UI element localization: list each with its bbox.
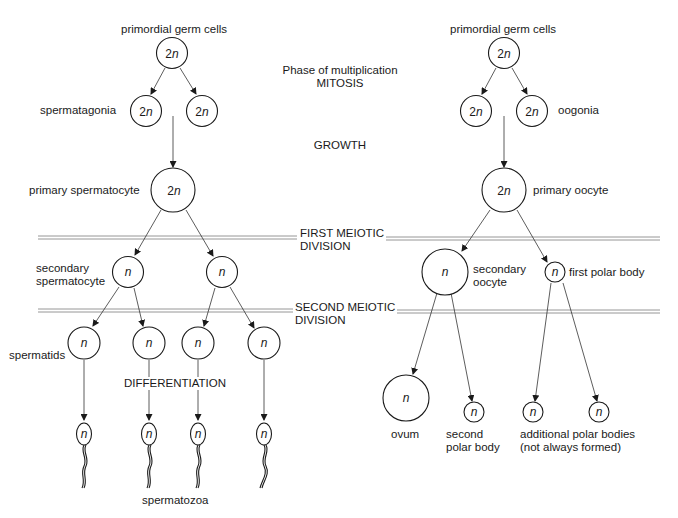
spermatagonia-label: spermatagonia [40, 104, 116, 117]
secondary-spermatocyte-label: secondary spermatocyte [36, 262, 105, 288]
node-primary-spermatocyte: 2n [151, 168, 195, 212]
node-secondary-oocyte: n [422, 249, 468, 295]
phase-growth-label: GROWTH [290, 139, 390, 152]
node-secondary-spermatocyte-2: n [207, 257, 238, 288]
node-female-primordial: 2n [489, 38, 520, 69]
svg-text:2n: 2n [497, 184, 511, 198]
node-spermatagonium-1: 2n [131, 96, 162, 127]
svg-text:2n: 2n [497, 47, 511, 61]
spermatids-label: spermatids [9, 349, 65, 362]
svg-text:2n: 2n [139, 105, 153, 119]
node-spermatid-4: n [248, 327, 280, 359]
male-primordial-label: primordial germ cells [121, 23, 227, 36]
spermatozoa-label: spermatozoa [142, 494, 208, 507]
svg-text:2n: 2n [195, 105, 209, 119]
svg-text:n: n [195, 427, 202, 441]
female-connectors [413, 68, 597, 401]
first-meiotic-division-label: FIRST MEIOTIC DIVISION [300, 227, 386, 253]
secondary-text: secondary [473, 263, 526, 276]
division-text: DIVISION [300, 240, 384, 253]
svg-text:n: n [125, 265, 132, 279]
svg-text:2n: 2n [165, 47, 179, 61]
spermatocyte-text: spermatocyte [36, 275, 105, 288]
node-spermatozoon-2: n [142, 423, 157, 488]
phase-multiplication-text: Phase of multiplication [265, 64, 415, 77]
svg-text:n: n [146, 427, 153, 441]
node-male-primordial: 2n [157, 38, 188, 69]
phase-multiplication-label: Phase of multiplication MITOSIS [265, 64, 415, 90]
node-additional-polar-body-2: n [589, 402, 609, 422]
svg-text:n: n [403, 391, 410, 405]
svg-text:2n: 2n [525, 105, 539, 119]
node-spermatozoon-4: n [257, 423, 272, 488]
second-meiotic-text: SECOND MEIOTIC [295, 301, 395, 314]
node-spermatozoon-1: n [77, 423, 92, 488]
svg-text:n: n [552, 265, 559, 279]
svg-text:n: n [81, 336, 88, 350]
additional-polar-bodies-text: additional polar bodies [520, 428, 635, 441]
node-ovum: n [383, 375, 429, 421]
node-oogonium-2: 2n [517, 96, 548, 127]
svg-text:n: n [442, 265, 449, 279]
svg-text:n: n [530, 405, 537, 419]
oogonia-label: oogonia [558, 104, 599, 117]
first-meiotic-text: FIRST MEIOTIC [300, 227, 384, 240]
svg-text:n: n [596, 405, 603, 419]
second-polar-body-label: second polar body [446, 428, 500, 454]
svg-text:n: n [81, 427, 88, 441]
node-spermatagonium-2: 2n [187, 96, 218, 127]
svg-text:2n: 2n [469, 105, 483, 119]
secondary-oocyte-label: secondary oocyte [473, 263, 526, 289]
node-first-polar-body: n [545, 262, 565, 282]
svg-text:n: n [219, 265, 226, 279]
second-meiotic-division-label: SECOND MEIOTIC DIVISION [295, 301, 397, 327]
svg-text:n: n [195, 336, 202, 350]
not-always-formed-text: (not always formed) [520, 441, 635, 454]
svg-text:2n: 2n [167, 184, 181, 198]
second-text: second [446, 428, 500, 441]
oocyte-text: oocyte [473, 276, 526, 289]
svg-text:n: n [261, 427, 268, 441]
node-second-polar-body: n [464, 402, 484, 422]
polar-body-text: polar body [446, 441, 500, 454]
node-spermatid-3: n [182, 327, 214, 359]
additional-polar-bodies-label: additional polar bodies (not always form… [520, 428, 635, 454]
female-primordial-label: primordial germ cells [450, 23, 556, 36]
male-connectors [84, 68, 264, 420]
node-oogonium-1: 2n [461, 96, 492, 127]
node-additional-polar-body-1: n [523, 402, 543, 422]
node-primary-oocyte: 2n [482, 168, 526, 212]
secondary-text: secondary [36, 262, 105, 275]
phase-differentiation-label: DIFFERENTIATION [124, 377, 226, 390]
primary-oocyte-label: primary oocyte [533, 184, 608, 197]
node-spermatid-1: n [68, 327, 100, 359]
svg-text:n: n [261, 336, 268, 350]
svg-text:n: n [471, 405, 478, 419]
svg-text:n: n [146, 336, 153, 350]
ovum-label: ovum [391, 428, 419, 441]
node-spermatozoon-3: n [191, 423, 206, 488]
phase-mitosis-text: MITOSIS [265, 77, 415, 90]
node-secondary-spermatocyte-1: n [113, 257, 144, 288]
primary-spermatocyte-label: primary spermatocyte [29, 184, 140, 197]
node-spermatid-2: n [133, 327, 165, 359]
division-text: DIVISION [295, 314, 395, 327]
first-polar-body-label: first polar body [569, 266, 644, 279]
